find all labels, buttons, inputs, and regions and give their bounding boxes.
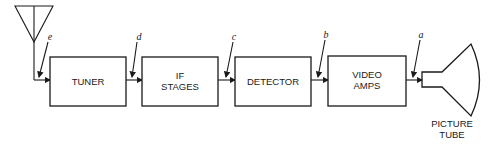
output-label: PICTURE	[431, 118, 473, 129]
svg-text:d: d	[137, 31, 143, 42]
block-label: STAGES	[161, 81, 199, 92]
svg-text:e: e	[48, 31, 53, 42]
block-label: TUNER	[72, 76, 105, 87]
block-label: IF	[176, 70, 185, 81]
block-diagram: TUNER IF STAGES DETECTOR VIDEO AMPS PICT…	[0, 0, 489, 146]
test-point-d: d	[132, 31, 143, 77]
picture-tube-icon	[422, 44, 480, 116]
block-detector: DETECTOR	[235, 57, 311, 106]
block-label: AMPS	[354, 80, 381, 91]
block-label: VIDEO	[352, 69, 382, 80]
svg-text:a: a	[419, 29, 424, 40]
test-point-a: a	[413, 29, 424, 77]
block-video-amps: VIDEO AMPS	[328, 56, 406, 106]
block-tuner: TUNER	[50, 57, 126, 106]
test-point-b: b	[318, 29, 329, 77]
block-label: DETECTOR	[247, 76, 299, 87]
svg-text:c: c	[232, 31, 237, 42]
block-if-stages: IF STAGES	[142, 57, 218, 106]
output-label: TUBE	[439, 129, 464, 140]
svg-text:b: b	[324, 29, 329, 40]
